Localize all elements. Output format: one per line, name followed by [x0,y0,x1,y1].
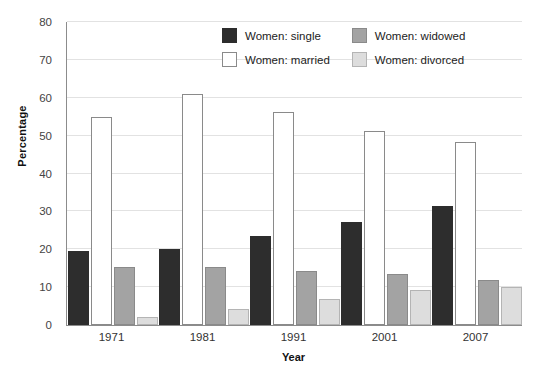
bar-divorced-1991[interactable] [319,299,340,326]
bar-divorced-1981[interactable] [228,309,249,325]
legend-swatch-divorced-icon [352,52,367,67]
legend-swatch-single-icon [222,28,237,43]
x-axis-tick-label-2007: 2007 [463,331,489,343]
bar-divorced-2001[interactable] [410,290,431,325]
chart-legend: Women: singleWomen: widowedWomen: marrie… [222,28,465,67]
bar-group [67,22,158,325]
bar-divorced-2007[interactable] [501,287,522,325]
bar-single-1991[interactable] [250,236,271,325]
bar-divorced-1971[interactable] [137,317,158,325]
y-axis-tick-label: 60 [39,92,52,104]
bar-group [158,22,249,325]
y-axis-tick-label: 20 [39,243,52,255]
y-axis-tick-label: 30 [39,205,52,217]
bar-widowed-1981[interactable] [205,267,226,325]
legend-label: Women: married [245,54,330,66]
bar-single-2007[interactable] [432,206,453,325]
bar-widowed-1971[interactable] [114,267,135,325]
y-axis-tick-label: 80 [39,16,52,28]
x-axis-tick-labels: 19711981199120012007 [66,331,521,351]
bar-group [340,22,431,325]
x-axis-tick-label-1991: 1991 [281,331,307,343]
bar-married-1971[interactable] [91,117,112,325]
legend-swatch-widowed-icon [352,28,367,43]
legend-item-divorced[interactable]: Women: divorced [352,52,466,67]
bar-widowed-2001[interactable] [387,274,408,326]
legend-item-widowed[interactable]: Women: widowed [352,28,466,43]
legend-label: Women: widowed [375,30,466,42]
bar-group [431,22,522,325]
y-axis-tick-labels: 01020304050607080 [0,22,60,325]
bar-chart: Percentage 01020304050607080 19711981199… [0,0,537,378]
legend-label: Women: single [245,30,321,42]
bar-single-1971[interactable] [68,251,89,325]
y-axis-tick-label: 10 [39,281,52,293]
bar-groups [67,22,522,325]
y-axis-tick-label: 70 [39,54,52,66]
bar-group [249,22,340,325]
x-axis-tick-label-1971: 1971 [99,331,125,343]
bar-widowed-1991[interactable] [296,271,317,325]
legend-label: Women: divorced [375,54,464,66]
bar-married-2001[interactable] [364,131,385,325]
x-axis-tick-label-2001: 2001 [372,331,398,343]
bar-single-2001[interactable] [341,222,362,325]
plot-area [66,22,522,326]
x-axis-tick-label-1981: 1981 [190,331,216,343]
y-axis-tick-label: 40 [39,168,52,180]
y-axis-tick-label: 50 [39,130,52,142]
bar-married-2007[interactable] [455,142,476,325]
bar-widowed-2007[interactable] [478,280,499,325]
y-axis-tick-label: 0 [46,319,52,331]
legend-swatch-married-icon [222,52,237,67]
bar-married-1991[interactable] [273,112,294,325]
bar-married-1981[interactable] [182,94,203,325]
x-axis-title: Year [66,351,521,363]
legend-item-single[interactable]: Women: single [222,28,330,43]
legend-item-married[interactable]: Women: married [222,52,330,67]
bar-single-1981[interactable] [159,249,180,325]
